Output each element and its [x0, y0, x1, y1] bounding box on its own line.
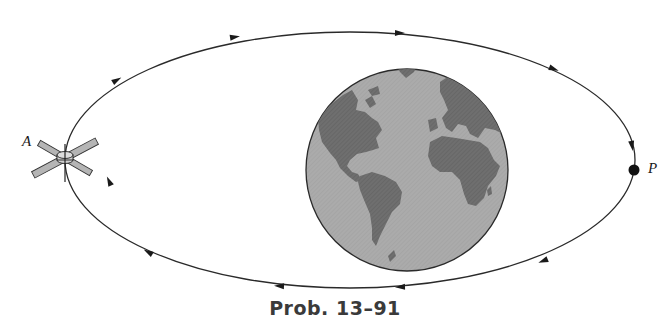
- satellite-icon: [32, 138, 99, 182]
- arrow-icon: [395, 284, 405, 290]
- arrow-icon: [104, 175, 114, 187]
- arrow-icon: [230, 33, 241, 40]
- perigee-point: [629, 165, 640, 176]
- orbit-diagram: [0, 0, 670, 331]
- arrow-icon: [395, 30, 405, 36]
- arrow-icon: [537, 256, 549, 265]
- apogee-label: A: [22, 133, 31, 150]
- earth: [306, 58, 512, 271]
- perigee-label: P: [648, 160, 657, 177]
- figure-caption: Prob. 13–91: [0, 297, 670, 319]
